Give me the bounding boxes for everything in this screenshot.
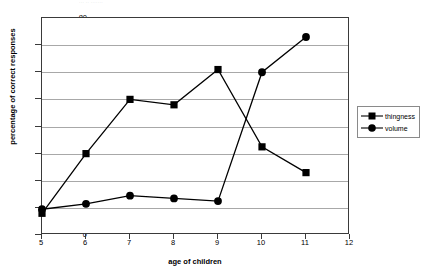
data-point-volume — [126, 192, 134, 200]
data-point-thingness — [82, 150, 89, 157]
legend-key-circle-icon — [361, 123, 383, 133]
data-series-layer — [42, 18, 350, 235]
x-axis-tick-label: 12 — [337, 238, 361, 247]
y-axis-title: percentage of correct responses — [8, 7, 17, 167]
series-line-volume — [42, 37, 306, 209]
data-point-volume — [258, 68, 266, 76]
x-axis-title: age of children — [41, 257, 349, 266]
x-axis-tick-label: 9 — [205, 238, 229, 247]
data-point-volume — [302, 33, 310, 41]
data-point-thingness — [258, 143, 265, 150]
legend-item-thingness[interactable]: thingness — [361, 110, 415, 122]
data-point-thingness — [126, 96, 133, 103]
series-line-thingness — [42, 70, 306, 214]
x-axis-tick-label: 7 — [117, 238, 141, 247]
chart-title-fragment: ··· ·· ······· — [56, 0, 126, 6]
x-axis-tick-label: 5 — [29, 238, 53, 247]
x-axis-tick-label: 6 — [73, 238, 97, 247]
data-point-volume — [38, 205, 46, 213]
plot-area — [41, 17, 349, 234]
data-point-volume — [170, 194, 178, 202]
data-point-volume — [82, 200, 90, 208]
x-axis-tick-label: 8 — [161, 238, 185, 247]
data-point-thingness — [302, 169, 309, 176]
chart-container: ··· ·· ······· percentage of correct res… — [0, 0, 432, 274]
data-point-volume — [214, 197, 222, 205]
data-point-thingness — [170, 101, 177, 108]
legend-label-thingness: thingness — [383, 113, 415, 120]
legend-key-square-icon — [361, 111, 383, 121]
legend-label-volume: volume — [383, 125, 408, 132]
x-axis-tick-label: 11 — [293, 238, 317, 247]
data-point-thingness — [214, 66, 221, 73]
legend-item-volume[interactable]: volume — [361, 122, 415, 134]
chart-legend: thingness volume — [357, 106, 420, 138]
x-axis-tick-label: 10 — [249, 238, 273, 247]
